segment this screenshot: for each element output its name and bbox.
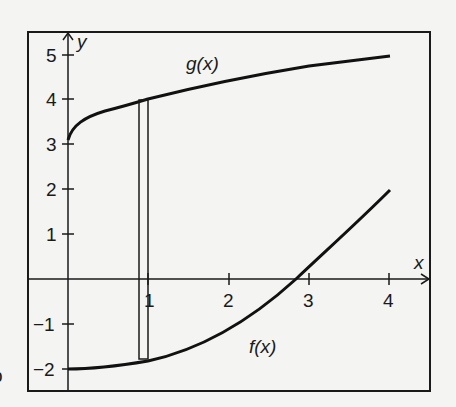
x-tick-label: 3 [303,290,314,311]
f-curve-label: f(x) [249,336,276,357]
y-tick-label: −2 [33,359,55,380]
x-tick-label: 1 [144,290,155,311]
y-tick-label: 5 [46,45,57,66]
rectangle-strip [139,100,148,359]
y-tick-label: 2 [46,179,57,200]
function-graph: 1 2 3 4 5 4 3 2 1 −1 −2 y x g(x) f(x) b [0,0,456,407]
g-curve-label: g(x) [186,53,219,74]
y-tick-label: 1 [46,224,57,245]
y-tick-label: −1 [33,314,55,335]
y-axis-label: y [75,31,88,52]
x-axis-label: x [413,252,425,273]
y-tick-label: 3 [46,134,57,155]
edge-text-fragment: b [0,365,3,386]
x-tick-label: 4 [383,290,394,311]
y-tick-label: 4 [46,89,57,110]
g-curve [68,56,390,140]
x-tick-label: 2 [223,290,234,311]
